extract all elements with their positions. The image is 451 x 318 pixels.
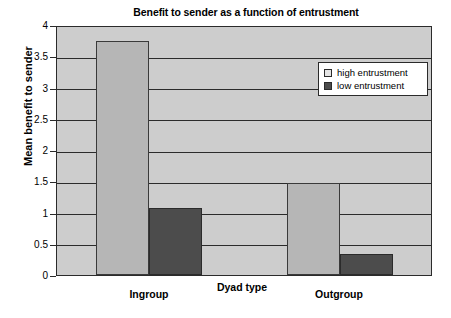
legend: high entrustment low entrustment (318, 62, 428, 96)
x-axis-title: Dyad type (188, 281, 296, 293)
legend-swatch-high-entrustment (324, 69, 332, 77)
y-tick-label: 4 (8, 20, 48, 31)
legend-item-low-entrustment: low entrustment (324, 79, 423, 92)
y-tick-label: 3.5 (8, 51, 48, 62)
y-tick-label: 1 (8, 208, 48, 219)
y-tick-mark (50, 276, 56, 277)
legend-swatch-low-entrustment (324, 82, 332, 90)
y-tick-label: 2.5 (8, 114, 48, 125)
x-tick-label-ingroup: Ingroup (96, 288, 202, 300)
bar-outgroup-low (340, 254, 393, 275)
x-tick-label-outgroup: Outgroup (286, 288, 392, 300)
y-tick-label: 0.5 (8, 239, 48, 250)
y-tick-label: 3 (8, 83, 48, 94)
legend-item-high-entrustment: high entrustment (324, 66, 423, 79)
bar-ingroup-low (149, 208, 202, 276)
y-tick-label: 1.5 (8, 176, 48, 187)
bar-outgroup-high (287, 183, 340, 275)
legend-label-high-entrustment: high entrustment (337, 67, 408, 78)
bar-ingroup-high (96, 41, 149, 275)
y-tick-label: 0 (8, 270, 48, 281)
chart-title: Benefit to sender as a function of entru… (56, 6, 436, 18)
bar-chart-figure: Benefit to sender as a function of entru… (0, 0, 451, 318)
y-axis-title: Mean benefit to sender (22, 26, 34, 186)
legend-label-low-entrustment: low entrustment (337, 80, 404, 91)
y-tick-label: 2 (8, 145, 48, 156)
